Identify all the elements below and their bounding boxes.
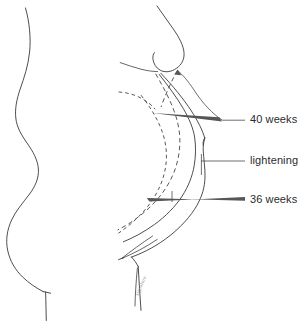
contour-36-weeks-curve [118, 74, 180, 230]
leader-40-weeks-upper-branch [178, 71, 222, 120]
leader-36-weeks: 36 weeks [147, 191, 298, 205]
leader-40-weeks-arrowhead [174, 69, 181, 75]
leader-40-weeks: 40 weeks [152, 69, 298, 125]
right-thigh-line [132, 257, 139, 266]
label-36-weeks: 36 weeks [250, 193, 298, 205]
convergence-line-upper [121, 239, 157, 258]
leader-40-weeks-wedge [152, 113, 222, 121]
left-thigh-line [43, 292, 51, 294]
left-leg-line [46, 292, 47, 321]
label-40-weeks: 40 weeks [250, 113, 298, 125]
right-inframammary-fold [120, 63, 157, 72]
left-torso-outline [7, 8, 43, 292]
label-lightening: lightening [250, 154, 298, 166]
contour-lightening-curve [123, 74, 195, 241]
leader-36-weeks-wedge [147, 197, 245, 201]
contour-inner-dashed-curve [118, 95, 166, 233]
illustration-canvas: 40 weeks lightening 36 weeks signature [0, 0, 306, 327]
pubic-apex-point [119, 258, 124, 260]
left-figure-non-pregnant-profile [7, 8, 51, 321]
right-figure-pregnant-profile [118, 6, 205, 310]
leader-lightening: lightening [201, 154, 298, 175]
medical-illustration-svg: 40 weeks lightening 36 weeks signature [0, 0, 306, 327]
right-back-and-breast-outline [153, 6, 184, 72]
